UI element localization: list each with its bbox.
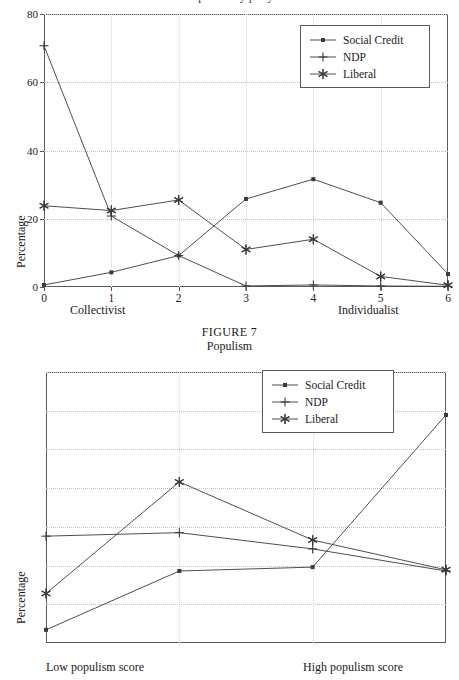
legend-1: Social CreditNDPLiberal (300, 25, 430, 88)
y-tick-label: 80 (4, 9, 38, 20)
x-axis-right-end-label-1: Individualist (338, 303, 399, 318)
x-axis-tick (44, 287, 45, 291)
plus-icon (270, 395, 300, 409)
chart-populism: 010203040506070 0123 Percentage Low popu… (0, 360, 459, 680)
series-line (46, 533, 446, 571)
x-axis-left-end-label-1: Collectivist (70, 303, 125, 318)
legend-item-label: NDP (305, 396, 328, 408)
x-tick-label: 3 (226, 292, 266, 304)
x-axis-tick (381, 287, 382, 291)
series-line (46, 415, 446, 630)
figure-caption: FIGURE 7 Populism (0, 325, 459, 353)
x-axis-tick (111, 287, 112, 291)
legend-item-label: Social Credit (343, 34, 403, 46)
y-axis-tick (40, 14, 44, 15)
legend-2: Social CreditNDPLiberal (262, 370, 394, 433)
figure-page: Populism by party 020406080 0123456 Perc… (0, 0, 459, 680)
legend-item[interactable]: Liberal (270, 410, 384, 427)
figure-number: FIGURE 7 (0, 325, 459, 339)
x-axis-right-end-label-2: High populism score (303, 660, 403, 675)
series-line (44, 179, 448, 285)
legend-item-label: Liberal (305, 413, 338, 425)
series-line (46, 482, 446, 593)
x-tick-label: 4 (293, 292, 333, 304)
x-axis-tick (246, 287, 247, 291)
legend-item[interactable]: Social Credit (270, 376, 384, 393)
plus-icon (308, 50, 338, 64)
legend-item-label: Liberal (343, 68, 376, 80)
x-tick-label: 0 (24, 292, 64, 304)
x-tick-label: 6 (428, 292, 459, 304)
figure-title: Populism (0, 339, 459, 353)
x-axis-left-end-label-2: Low populism score (46, 660, 144, 675)
square-dot-icon (270, 378, 300, 392)
x-axis-tick (448, 287, 449, 291)
series-line (44, 200, 448, 285)
chart-collectivist-individualist: 020406080 0123456 Percentage Collectivis… (0, 0, 459, 318)
y-tick-label: 40 (4, 146, 38, 157)
legend-item[interactable]: NDP (270, 393, 384, 410)
legend-item[interactable]: Social Credit (308, 31, 420, 48)
y-axis-title-1: Percentage (14, 215, 29, 268)
asterisk-icon (308, 67, 338, 81)
x-axis-tick (179, 287, 180, 291)
y-axis-tick (40, 219, 44, 220)
legend-item[interactable]: Liberal (308, 65, 420, 82)
y-tick-label: 60 (4, 77, 38, 88)
legend-item[interactable]: NDP (308, 48, 420, 65)
x-tick-label: 2 (159, 292, 199, 304)
legend-item-label: NDP (343, 51, 366, 63)
square-dot-icon (308, 33, 338, 47)
y-axis-title-2: Percentage (14, 571, 29, 624)
x-axis-tick (313, 287, 314, 291)
asterisk-icon (270, 412, 300, 426)
y-axis-tick (40, 82, 44, 83)
legend-item-label: Social Credit (305, 379, 365, 391)
y-axis-tick (40, 151, 44, 152)
